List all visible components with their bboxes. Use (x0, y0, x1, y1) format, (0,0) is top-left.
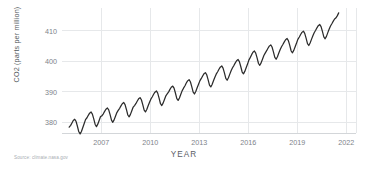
grid-lines (62, 8, 356, 133)
x-tick-label: 2019 (289, 138, 305, 147)
y-tick-label: 380 (29, 118, 57, 127)
y-axis-title: CO2 (parts per million) (12, 0, 21, 105)
y-tick-label: 390 (29, 87, 57, 96)
x-tick-label: 2007 (93, 138, 109, 147)
y-tick-label: 410 (29, 26, 57, 35)
x-tick-label: 2016 (240, 138, 256, 147)
y-tick-label: 400 (29, 57, 57, 66)
co2-line-chart: 380390400410 200720102013201620192022 CO… (0, 0, 368, 171)
x-tick-label: 2010 (142, 138, 158, 147)
source-note: Source: climate.nasa.gov (14, 155, 68, 160)
x-tick-label: 2022 (338, 138, 354, 147)
x-tick-label: 2013 (191, 138, 207, 147)
axis-lines (62, 8, 356, 133)
